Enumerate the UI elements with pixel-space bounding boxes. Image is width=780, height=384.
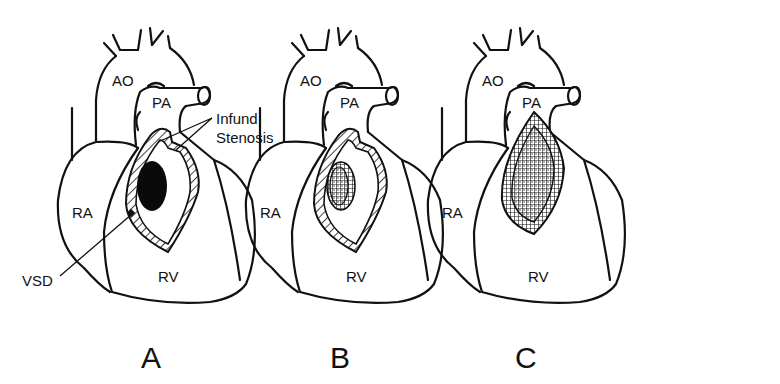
- label-right-atrium: RA: [442, 204, 463, 221]
- label-aorta: AO: [300, 72, 322, 89]
- label-infund: Infund.: [216, 110, 262, 127]
- label-pulmonary-artery: PA: [340, 94, 359, 111]
- label-vsd: VSD: [22, 272, 53, 289]
- panel-c: AO PA RA RV C: [428, 28, 625, 374]
- label-right-ventricle: RV: [528, 268, 549, 285]
- label-right-ventricle: RV: [158, 268, 179, 285]
- label-right-ventricle: RV: [346, 268, 367, 285]
- label-right-atrium: RA: [260, 204, 281, 221]
- panel-b: AO PA RA RV B: [246, 28, 443, 374]
- panel-label-c: C: [515, 341, 537, 374]
- panel-a: AO PA Infund. Stenosis RA RV VSD A: [22, 28, 274, 374]
- vsd-defect: [137, 161, 167, 211]
- label-stenosis: Stenosis: [216, 129, 274, 146]
- panel-label-b: B: [330, 341, 350, 374]
- figure: AO PA Infund. Stenosis RA RV VSD A AO PA…: [0, 0, 780, 384]
- label-pulmonary-artery: PA: [522, 94, 541, 111]
- label-pulmonary-artery: PA: [152, 94, 171, 111]
- label-right-atrium: RA: [72, 204, 93, 221]
- label-aorta: AO: [482, 72, 504, 89]
- vsd-patch: [330, 167, 348, 205]
- panel-label-a: A: [141, 341, 161, 374]
- label-aorta: AO: [112, 72, 134, 89]
